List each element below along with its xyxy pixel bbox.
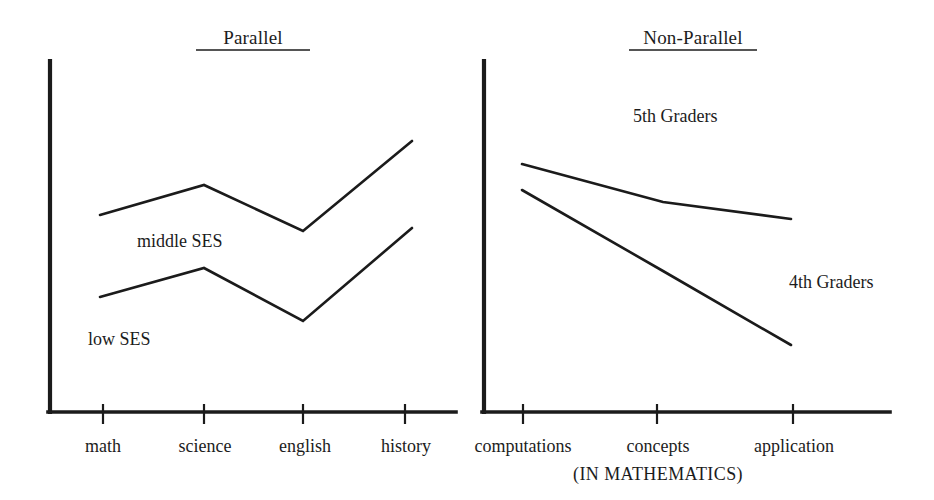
x-tick-label-english: english <box>279 436 331 456</box>
x-tick-label-history: history <box>381 436 431 456</box>
x-tick-label-computations: computations <box>475 436 572 456</box>
series-line-middle-ses <box>100 141 412 231</box>
series-label-4th-graders: 4th Graders <box>789 272 873 292</box>
series-line-5th-graders <box>522 164 791 219</box>
x-tick-label-science: science <box>179 436 232 456</box>
panel-title-non-parallel: Non-Parallel <box>643 27 742 48</box>
x-tick-label-concepts: concepts <box>627 436 690 456</box>
panel-non-parallel: Non-Parallel 5th Graders 4th Graders com… <box>475 27 891 485</box>
series-label-low-ses: low SES <box>88 329 151 349</box>
x-axis-caption: (IN MATHEMATICS) <box>573 464 743 485</box>
x-tick-label-application: application <box>754 436 834 456</box>
figure-canvas: Parallel middle SES low SES math science… <box>0 0 934 500</box>
x-tick-label-math: math <box>85 436 121 456</box>
series-label-middle-ses: middle SES <box>137 231 223 251</box>
panel-title-parallel: Parallel <box>223 27 283 48</box>
panel-parallel: Parallel middle SES low SES math science… <box>48 27 456 456</box>
series-label-5th-graders: 5th Graders <box>633 106 717 126</box>
interaction-plots-figure: Parallel middle SES low SES math science… <box>0 0 934 500</box>
